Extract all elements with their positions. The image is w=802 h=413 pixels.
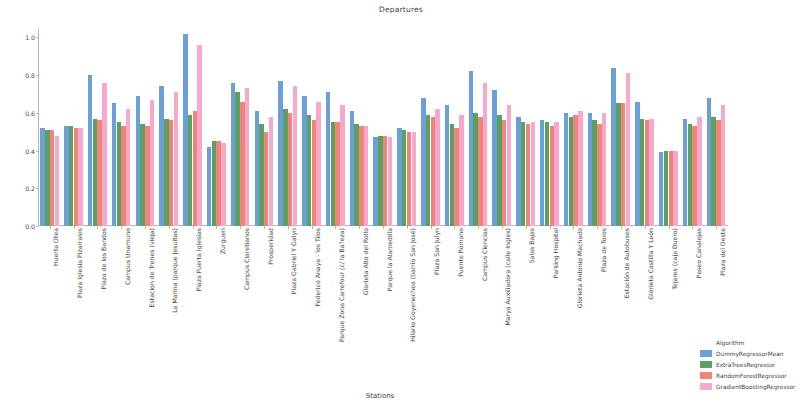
bar-group <box>231 28 250 226</box>
bar <box>483 83 487 226</box>
bar <box>554 122 558 226</box>
y-tick-label: 0.4 <box>25 147 35 154</box>
legend-entry[interactable]: RandomForestRegressor <box>700 370 802 381</box>
bar-group <box>611 28 630 226</box>
bar-group <box>350 28 369 226</box>
x-tick-label: Parque Zona Carrefour (c/ la Ba?eza) <box>338 228 345 342</box>
bar-group <box>469 28 488 226</box>
chart-figure: Departures 0.00.20.40.60.81.0 Root Mean … <box>0 0 802 413</box>
bar-group <box>540 28 559 226</box>
legend-entry[interactable]: GradientBoostingRegressor <box>700 381 802 392</box>
y-tick-label: 1.0 <box>25 34 35 41</box>
bar <box>388 137 392 226</box>
x-tick-label: Campus Claretianos <box>243 228 250 290</box>
y-tick-mark <box>36 151 39 152</box>
bar-group <box>88 28 107 226</box>
bar <box>531 122 535 226</box>
x-tick-label: Plaza de Toros <box>600 228 607 272</box>
y-tick-mark <box>36 188 39 189</box>
x-axis-tick-labels: Huerta OteaPlaza Iglesia PizarralesPlaza… <box>38 228 728 348</box>
legend-label: GradientBoostingRegressor <box>716 384 795 390</box>
bar-group <box>635 28 654 226</box>
y-tick-label: 0.0 <box>25 223 35 230</box>
x-tick-label: Huerta Otea <box>52 228 59 266</box>
legend-swatch <box>700 372 712 379</box>
bar-group <box>397 28 416 226</box>
x-tick-label: Federico Anaya - los Tilos <box>314 228 321 306</box>
bar <box>602 113 606 226</box>
bar <box>673 151 677 226</box>
plot-area: 0.00.20.40.60.81.0 <box>38 28 728 226</box>
bar <box>293 86 297 226</box>
bar-group <box>40 28 59 226</box>
x-tick-label: Glorieta Antonio Machado <box>576 228 583 308</box>
x-tick-label: Plaza de los Bandos <box>100 228 107 290</box>
bar <box>55 136 59 227</box>
bar-group <box>564 28 583 226</box>
x-tick-label: Marya Auxiliadora (calle Ingles) <box>504 228 511 326</box>
bar-group <box>373 28 392 226</box>
y-axis-line <box>38 28 39 226</box>
legend-entry[interactable]: DummyRegressorMean <box>700 348 802 359</box>
bar <box>174 92 178 226</box>
bar-group <box>136 28 155 226</box>
legend-swatch <box>700 383 712 390</box>
y-tick-mark <box>36 113 39 114</box>
bar <box>78 128 82 226</box>
plot-frame: 0.00.20.40.60.81.0 <box>38 28 728 226</box>
bar-group <box>207 28 226 226</box>
x-tick-label: Glorieta Alto del Rollo <box>362 228 369 295</box>
legend-swatch <box>700 361 712 368</box>
chart-title: Departures <box>0 5 802 14</box>
x-tick-label: Puente Romano <box>457 228 464 277</box>
y-tick-label: 0.6 <box>25 109 35 116</box>
bar-group <box>278 28 297 226</box>
x-tick-label: Parque la Alamedilla <box>386 228 393 291</box>
y-tick-mark <box>36 75 39 76</box>
bar-group <box>183 28 202 226</box>
bar-group <box>492 28 511 226</box>
bar <box>721 105 725 226</box>
x-tick-label: Plaza Gabriel Y Galyn <box>290 228 297 294</box>
bar <box>649 119 653 226</box>
bar <box>316 102 320 226</box>
x-tick-label: Prosperidad <box>267 228 274 265</box>
bar <box>221 143 225 226</box>
y-tick-mark <box>36 37 39 38</box>
y-tick-mark <box>36 226 39 227</box>
x-tick-label: Plaza Puerta Iglesias <box>195 228 202 292</box>
x-tick-label: Plaza San Julyn <box>433 228 440 275</box>
legend-entry[interactable]: ExtraTreesRegressor <box>700 359 802 370</box>
bar-group <box>159 28 178 226</box>
bar-group <box>302 28 321 226</box>
bar-group <box>326 28 345 226</box>
y-axis-label: Root Mean Squared Log Error RMSLE <box>0 0 9 28</box>
x-tick-label: Estación de Autobuses <box>623 228 630 298</box>
bar-group <box>112 28 131 226</box>
bar-group <box>588 28 607 226</box>
x-tick-label: Campus Ciencias <box>481 228 488 281</box>
bar <box>412 132 416 226</box>
bar <box>578 111 582 226</box>
bar-group <box>516 28 535 226</box>
bar <box>507 105 511 226</box>
bar <box>435 109 439 226</box>
x-axis-label: Stations <box>0 392 760 400</box>
y-tick-label: 0.2 <box>25 185 35 192</box>
bar <box>459 115 463 226</box>
bar <box>697 117 701 226</box>
bar-group <box>707 28 726 226</box>
x-tick-label: Estacion de Trenes (vieja) <box>148 228 155 307</box>
x-tick-label: Glorieta Castilla Y León <box>647 228 654 300</box>
x-tick-label: Tejares (caja Duero) <box>671 228 678 290</box>
bar <box>245 88 249 226</box>
bar <box>126 109 130 226</box>
bar <box>102 83 106 226</box>
x-tick-label: Salas Bajas <box>528 228 535 263</box>
legend: Algorithm DummyRegressorMeanExtraTreesRe… <box>700 340 802 392</box>
x-tick-label: Parking Hospital <box>552 228 559 278</box>
bar <box>150 100 154 226</box>
x-tick-label: Plaza del Oeste <box>719 228 726 276</box>
bar <box>197 45 201 226</box>
y-tick-label: 0.8 <box>25 72 35 79</box>
